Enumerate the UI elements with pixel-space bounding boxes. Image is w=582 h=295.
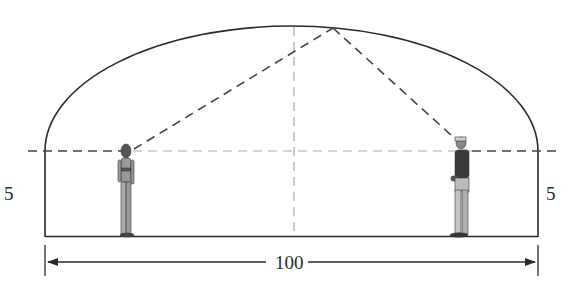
right-wall-height-label: 5 bbox=[546, 184, 556, 203]
elliptical-arch bbox=[45, 26, 538, 151]
sound-path bbox=[134, 28, 462, 149]
left-wall-height-label: 5 bbox=[4, 184, 14, 203]
man-figure bbox=[450, 137, 469, 237]
arrow-right-icon bbox=[525, 258, 536, 266]
span-width-label: 100 bbox=[271, 253, 308, 272]
diagram-canvas: 5 5 100 bbox=[0, 0, 582, 295]
arrow-left-icon bbox=[47, 258, 58, 266]
woman-figure bbox=[118, 144, 134, 237]
